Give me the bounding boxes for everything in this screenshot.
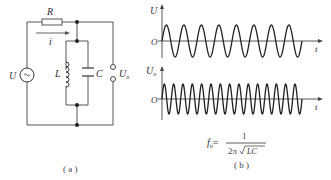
caption-b: ( b ) <box>234 160 249 170</box>
resistor-icon <box>42 19 62 25</box>
figure-canvas: R i U L C Uo ( a ) U O t Uo O t fn= 1 2π… <box>0 0 331 180</box>
resonance-formula: fn= 1 2π LC <box>207 131 266 156</box>
arrow-icon <box>318 39 323 43</box>
y-label-top: U <box>150 5 158 16</box>
waveform-bottom: Uo O t <box>146 65 323 120</box>
arrow-icon <box>318 97 323 101</box>
resistor-label: R <box>46 6 53 17</box>
node-dot <box>75 103 79 107</box>
circuit-diagram: R i U L C Uo ( a ) <box>9 6 129 174</box>
arrow-icon <box>160 4 164 9</box>
y-label-bottom: Uo <box>146 65 156 77</box>
source-label: U <box>9 70 17 81</box>
current-label: i <box>49 36 52 47</box>
inductor-label: L <box>54 68 61 79</box>
node-dot <box>75 20 79 24</box>
node-dot <box>75 123 79 127</box>
waveform-top: U O t <box>150 4 323 58</box>
output-terminal-icon <box>111 77 116 82</box>
origin-label-bottom: O <box>151 95 158 105</box>
caption-a: ( a ) <box>63 164 78 174</box>
x-label-bottom: t <box>315 102 318 112</box>
output-terminal-icon <box>111 65 116 70</box>
formula-denominator-prefix: 2π <box>228 146 238 156</box>
wire-left-bottom <box>27 82 113 125</box>
x-label-top: t <box>315 44 318 54</box>
arrow-icon <box>160 66 164 71</box>
svg-text:fn=: fn= <box>207 137 219 149</box>
capacitor-label: C <box>96 68 103 79</box>
origin-label-top: O <box>151 37 158 47</box>
formula-numerator: 1 <box>242 131 247 141</box>
wire-left-top <box>27 22 42 68</box>
formula-radicand: LC <box>246 147 257 156</box>
node-dot <box>75 39 79 43</box>
output-label: Uo <box>119 68 129 80</box>
